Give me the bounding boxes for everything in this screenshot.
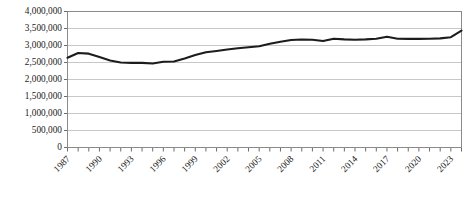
x-axis-tick-label: 2005 [243, 154, 263, 174]
y-axis-labels-group: 4,000,0003,500,0003,000,0002,500,0002,00… [25, 6, 63, 152]
x-axis-tick-label: 2020 [403, 154, 423, 174]
x-axis-tick-label: 1999 [179, 154, 199, 174]
x-axis-tick-label: 2008 [275, 154, 295, 174]
x-axis-tick-label: 1993 [116, 154, 136, 174]
y-axis-tickmarks-group [64, 12, 68, 148]
x-axis-tick-label: 2011 [308, 154, 328, 174]
y-axis-tick-label: 1,000,000 [25, 108, 63, 118]
y-axis-tick-label: 0 [57, 142, 62, 152]
x-axis-tick-label: 2002 [211, 154, 231, 174]
x-axis-tick-label: 2023 [435, 154, 455, 174]
line-chart: 4,000,0003,500,0003,000,0002,500,0002,00… [0, 0, 470, 198]
chart-container: 4,000,0003,500,0003,000,0002,500,0002,00… [0, 0, 470, 198]
y-axis-tick-label: 500,000 [32, 125, 63, 135]
x-axis-tick-label: 1990 [84, 154, 104, 174]
y-axis-tick-label: 1,500,000 [25, 91, 63, 101]
x-axis-tickmarks-group [68, 148, 462, 152]
x-axis-tick-label: 1996 [148, 154, 168, 174]
x-axis-tick-label: 2017 [371, 154, 391, 174]
data-series-group [68, 31, 462, 64]
data-line-series-1 [68, 31, 462, 64]
y-axis-tick-label: 2,500,000 [25, 57, 63, 67]
gridlines-group [68, 12, 462, 148]
x-axis-tick-label: 2014 [339, 154, 359, 174]
x-axis-tick-label: 1987 [52, 154, 72, 174]
y-axis-tick-label: 3,000,000 [25, 40, 63, 50]
y-axis-tick-label: 2,000,000 [25, 74, 63, 84]
x-axis-labels-group: 1987199019931996199920022005200820112014… [52, 154, 456, 174]
y-axis-tick-label: 3,500,000 [25, 23, 63, 33]
y-axis-tick-label: 4,000,000 [25, 6, 63, 16]
